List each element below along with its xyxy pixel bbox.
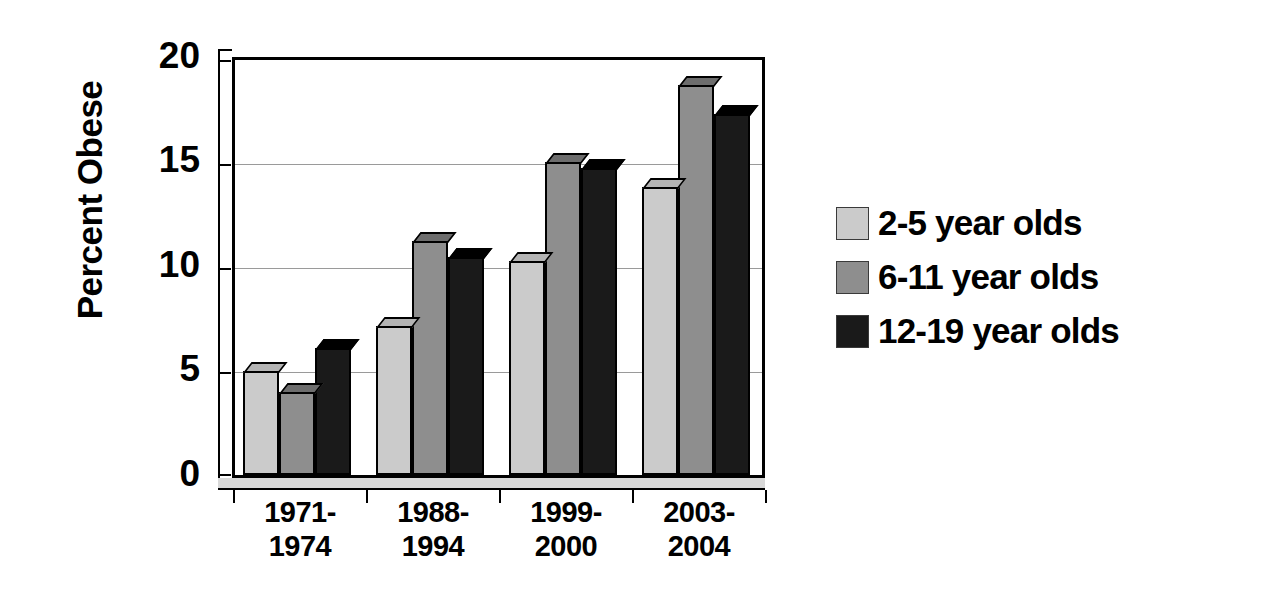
bar-cap xyxy=(412,232,457,243)
y-tickmark-10 xyxy=(219,268,231,270)
bar-cap xyxy=(243,362,288,373)
bar-2003-2004-6-11[interactable] xyxy=(678,85,714,475)
bar-cap xyxy=(545,153,590,164)
y-tickmark-20 xyxy=(219,60,231,62)
y-axis-tick-labels: 20 15 10 5 0 xyxy=(120,0,200,608)
legend-item-2-5[interactable]: 2-5 year olds xyxy=(836,196,1119,250)
bar-1988-1994-2-5[interactable] xyxy=(376,326,412,475)
x-tick-label-2003-2004: 2003- 2004 xyxy=(624,496,774,563)
y-tick-label-15: 15 xyxy=(120,141,200,178)
plot-area xyxy=(232,57,765,478)
x-tick-line1: 2003- xyxy=(624,496,774,530)
x-tick-line1: 1988- xyxy=(358,496,508,530)
bar-group-1999-2000 xyxy=(507,60,627,475)
x-tick-line1: 1971- xyxy=(225,496,375,530)
bar-group-1971-1974 xyxy=(241,60,361,475)
y-tick-label-20: 20 xyxy=(120,37,200,74)
x-tick-line2: 1974 xyxy=(225,530,375,564)
x-tick-label-1971-1974: 1971- 1974 xyxy=(225,496,375,563)
bar-2003-2004-12-19[interactable] xyxy=(714,114,750,475)
legend-label-2-5: 2-5 year olds xyxy=(878,203,1082,243)
bar-2003-2004-2-5[interactable] xyxy=(642,187,678,475)
bar-cap xyxy=(448,248,493,259)
axis-floor-right-edge xyxy=(765,57,779,490)
bar-1971-1974-6-11[interactable] xyxy=(279,392,315,475)
axis-floor xyxy=(218,478,779,490)
y-tick-label-10: 10 xyxy=(120,246,200,283)
bar-1971-1974-12-19[interactable] xyxy=(315,348,351,475)
bar-1999-2000-12-19[interactable] xyxy=(581,168,617,475)
y-tickmark-0 xyxy=(219,474,231,476)
y-tickmark-5 xyxy=(219,372,231,374)
bar-1971-1974-2-5[interactable] xyxy=(243,371,279,475)
legend-item-12-19[interactable]: 12-19 year olds xyxy=(836,304,1119,358)
bar-group-2003-2004 xyxy=(640,60,760,475)
legend-label-12-19: 12-19 year olds xyxy=(878,311,1119,351)
bar-cap xyxy=(678,76,723,87)
x-tick-line2: 2004 xyxy=(624,530,774,564)
legend: 2-5 year olds 6-11 year olds 12-19 year … xyxy=(836,196,1119,358)
obesity-bar-chart: Percent Obese 20 15 10 5 0 xyxy=(0,0,1276,608)
bar-1988-1994-12-19[interactable] xyxy=(448,257,484,475)
legend-item-6-11[interactable]: 6-11 year olds xyxy=(836,250,1119,304)
bar-1999-2000-6-11[interactable] xyxy=(545,162,581,475)
bar-cap xyxy=(581,159,626,170)
legend-label-6-11: 6-11 year olds xyxy=(878,257,1098,297)
x-tick-line2: 2000 xyxy=(491,530,641,564)
y-tickmark-15 xyxy=(219,164,231,166)
legend-swatch-icon-12-19 xyxy=(836,315,869,348)
legend-swatch-icon-2-5 xyxy=(836,207,869,240)
bar-cap xyxy=(714,105,759,116)
legend-swatch-icon-6-11 xyxy=(836,261,869,294)
x-tick-label-1999-2000: 1999- 2000 xyxy=(491,496,641,563)
y-axis-title: Percent Obese xyxy=(70,50,110,350)
bar-cap xyxy=(315,339,360,350)
x-tick-line2: 1994 xyxy=(358,530,508,564)
bar-1988-1994-6-11[interactable] xyxy=(412,241,448,475)
x-tick-line1: 1999- xyxy=(491,496,641,530)
y-tick-label-0: 0 xyxy=(120,455,200,492)
bar-1999-2000-2-5[interactable] xyxy=(509,261,545,475)
y-tick-label-5: 5 xyxy=(120,350,200,387)
axis-left-wall xyxy=(218,49,232,478)
bar-group-1988-1994 xyxy=(374,60,494,475)
x-tick-label-1988-1994: 1988- 1994 xyxy=(358,496,508,563)
